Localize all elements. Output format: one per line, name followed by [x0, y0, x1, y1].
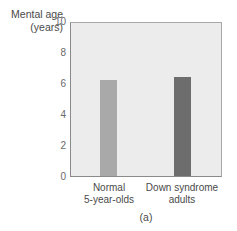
y-tick: 6	[60, 79, 66, 89]
y-tick: 0	[60, 172, 66, 182]
x-category-label-line2: 5-year-olds	[84, 194, 134, 206]
bar-normal-5-year-olds	[100, 80, 117, 176]
x-category-label-line2: adults	[146, 194, 218, 206]
x-category-label-line1: Down syndrome	[146, 182, 218, 194]
plot-area	[70, 22, 222, 177]
x-category-label: Down syndrome adults	[146, 182, 218, 206]
x-category-label-line1: Normal	[84, 182, 134, 194]
figure-caption: (a)	[140, 211, 153, 223]
x-category-label: Normal 5-year-olds	[84, 182, 134, 206]
y-tick: 4	[60, 110, 66, 120]
y-tick: 10	[55, 17, 66, 27]
y-tick: 8	[60, 48, 66, 58]
bar-down-syndrome-adults	[174, 77, 191, 176]
y-tick: 2	[60, 141, 66, 151]
